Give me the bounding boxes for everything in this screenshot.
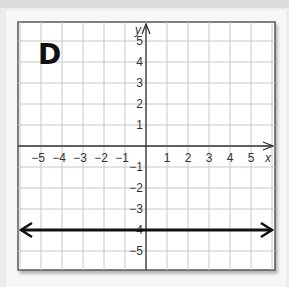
y-tick-label: −1: [129, 160, 143, 174]
x-tick-label: −2: [94, 151, 108, 165]
y-tick-label: 4: [136, 55, 143, 69]
x-axis-label: x: [264, 151, 272, 165]
coordinate-plane: −5−4−3−2−11234554321−1−2−3−4−5xy D: [0, 0, 289, 287]
x-tick-label: 5: [248, 151, 255, 165]
x-tick-label: 4: [227, 151, 234, 165]
y-tick-label: 2: [136, 97, 143, 111]
y-tick-label: −3: [129, 202, 143, 216]
y-axis-label: y: [134, 23, 142, 37]
y-tick-label: 3: [136, 76, 143, 90]
x-tick-label: −1: [115, 151, 129, 165]
figure-label: D: [38, 38, 61, 71]
x-tick-label: 2: [185, 151, 192, 165]
x-tick-label: −4: [52, 151, 66, 165]
y-tick-label: 1: [136, 118, 143, 132]
x-tick-label: 3: [206, 151, 213, 165]
x-tick-label: 1: [164, 151, 171, 165]
x-tick-label: −3: [73, 151, 87, 165]
y-tick-label: −2: [129, 181, 143, 195]
x-tick-label: −5: [31, 151, 45, 165]
y-tick-label: −5: [129, 244, 143, 258]
